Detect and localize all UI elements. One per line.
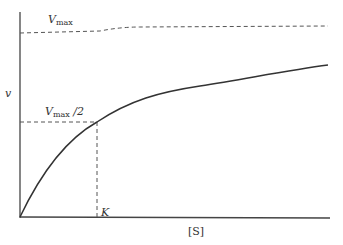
vmax-label: Vmax <box>48 14 73 27</box>
half-suffix: /2 <box>70 105 84 118</box>
vmax-base: V <box>48 13 56 26</box>
saturation-curve <box>20 65 328 217</box>
michaelis-menten-chart: Vmax Vmax /2 K v [S] <box>0 0 343 245</box>
k-label: K <box>101 207 109 218</box>
vmax-sub: max <box>56 18 73 27</box>
half-base: V <box>45 105 53 118</box>
x-axis <box>20 217 330 218</box>
x-axis-label: [S] <box>188 226 204 237</box>
vmax-half-label: Vmax /2 <box>45 106 84 119</box>
half-sub: max <box>53 110 70 119</box>
vmax-asymptote-line <box>20 26 328 33</box>
plot-area <box>0 0 343 245</box>
y-axis-label: v <box>5 88 11 99</box>
